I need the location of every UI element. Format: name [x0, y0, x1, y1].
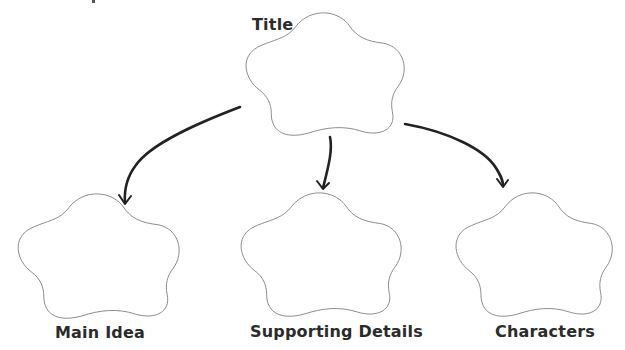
characters-cloud[interactable] [452, 192, 616, 318]
graphic-organizer-canvas: Title Main Idea Supporting Details Chara… [0, 0, 625, 350]
cloud-shape-icon [14, 193, 183, 320]
characters-label: Characters [495, 324, 595, 340]
arrow-title-to-main-idea [119, 107, 240, 204]
arrow-title-to-supporting-details [317, 137, 331, 189]
cloud-shape-icon [237, 192, 405, 318]
main-idea-label: Main Idea [55, 325, 145, 341]
cloud-shape-icon [452, 192, 616, 318]
main-idea-cloud[interactable] [14, 193, 183, 320]
supporting-details-label: Supporting Details [250, 324, 423, 340]
supporting-details-cloud[interactable] [237, 192, 405, 318]
title-label: Title [252, 17, 293, 33]
arrow-title-to-characters [405, 124, 508, 187]
